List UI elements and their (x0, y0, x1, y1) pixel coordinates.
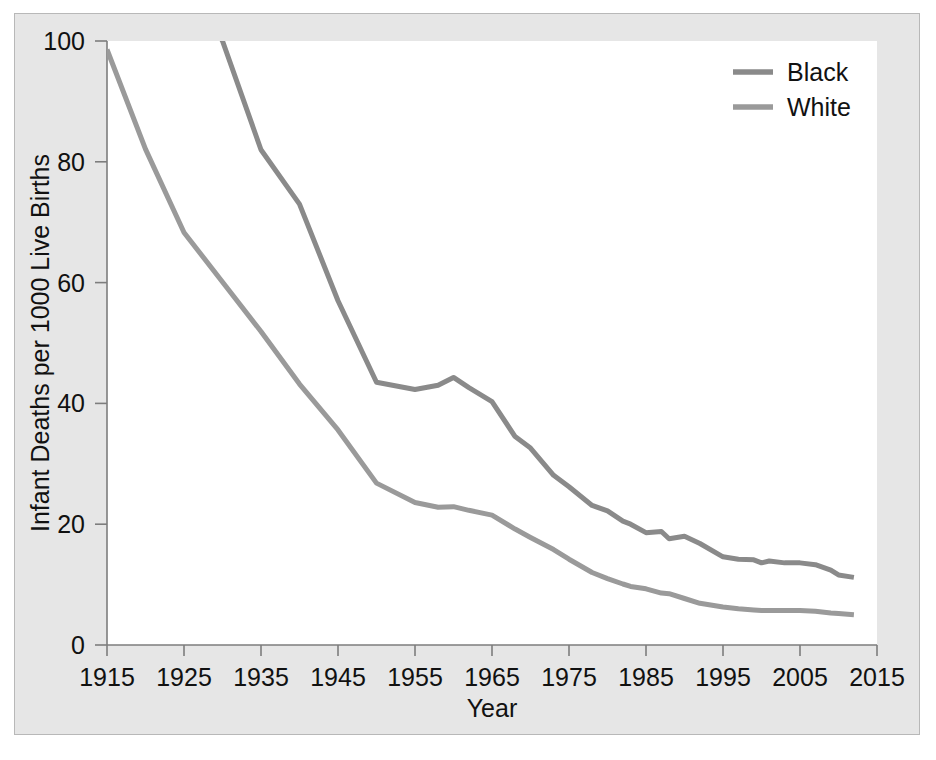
x-tick-label: 1925 (156, 663, 212, 691)
legend-label-white: White (787, 93, 851, 121)
x-tick-label: 1935 (233, 663, 289, 691)
x-tick-label: 2015 (849, 663, 905, 691)
x-axis-ticks (107, 645, 877, 656)
x-axis-tick-labels: 1915192519351945195519651975198519952005… (79, 663, 905, 691)
x-tick-label: 1945 (310, 663, 366, 691)
x-tick-label: 1955 (387, 663, 443, 691)
y-tick-label: 60 (57, 269, 85, 297)
plot-area (107, 41, 877, 645)
y-tick-label: 0 (71, 631, 85, 659)
x-tick-label: 1985 (618, 663, 674, 691)
line-chart: 1915192519351945195519651975198519952005… (15, 14, 921, 736)
x-tick-label: 1915 (79, 663, 135, 691)
x-tick-label: 2005 (772, 663, 828, 691)
x-tick-label: 1965 (464, 663, 520, 691)
x-axis-title: Year (467, 694, 518, 722)
figure-frame: 1915192519351945195519651975198519952005… (14, 13, 920, 735)
y-axis-ticks (95, 41, 107, 645)
y-tick-label: 80 (57, 148, 85, 176)
y-tick-label: 20 (57, 510, 85, 538)
y-tick-label: 100 (43, 27, 85, 55)
x-tick-label: 1975 (541, 663, 597, 691)
y-axis-title: Infant Deaths per 1000 Live Births (26, 154, 54, 532)
legend-label-black: Black (787, 58, 849, 86)
y-tick-label: 40 (57, 389, 85, 417)
x-tick-label: 1995 (695, 663, 751, 691)
